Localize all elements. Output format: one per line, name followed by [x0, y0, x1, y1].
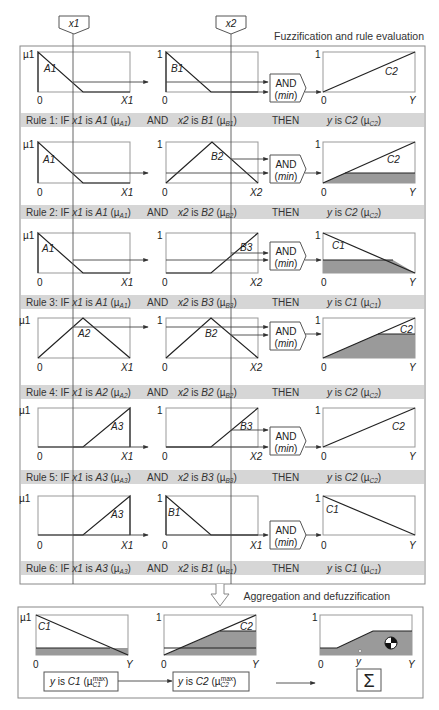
svg-text:0: 0	[33, 659, 39, 670]
svg-text:A1: A1	[42, 154, 55, 165]
svg-text:1: 1	[157, 139, 163, 150]
svg-text:X1: X1	[249, 540, 262, 551]
svg-text:0: 0	[321, 451, 327, 462]
svg-text:(min): (min)	[275, 90, 298, 101]
svg-text:AND: AND	[275, 159, 296, 170]
svg-text:0: 0	[321, 187, 327, 198]
svg-text:1: 1	[312, 612, 318, 623]
svg-text:X2: X2	[249, 187, 263, 198]
svg-text:0: 0	[318, 659, 324, 670]
svg-text:C2: C2	[240, 621, 253, 632]
svg-text:(min): (min)	[275, 443, 298, 454]
svg-text:1: 1	[156, 612, 162, 623]
svg-text:X2: X2	[249, 277, 263, 288]
svg-text:X1: X1	[120, 362, 133, 373]
svg-text:1: 1	[157, 405, 163, 416]
svg-text:A1: A1	[41, 243, 54, 254]
svg-text:B1: B1	[168, 507, 180, 518]
mu-label: µ1	[23, 49, 35, 60]
svg-text:µ1: µ1	[19, 493, 31, 504]
input-x2[interactable]: x2	[216, 16, 246, 34]
svg-text:AND: AND	[275, 431, 296, 442]
svg-text:0: 0	[162, 540, 168, 551]
svg-text:0: 0	[37, 187, 43, 198]
svg-text:y is C2 (µC2max): y is C2 (µC2max)	[177, 675, 236, 688]
svg-text:µ1: µ1	[19, 405, 31, 416]
svg-text:1: 1	[157, 315, 163, 326]
fuzzy-inference-diagram: Fuzzification and rule evaluation x1 x2 …	[0, 0, 439, 710]
svg-text:C2: C2	[385, 66, 398, 77]
sum-icon: Σ	[363, 671, 374, 691]
rule-4-text: Rule 4: IF x1 is A2 (µA2)ANDx2 is B2 (µB…	[26, 387, 381, 399]
svg-text:y is C1 (µC1max): y is C1 (µC1max)	[49, 675, 108, 688]
svg-text:C1: C1	[326, 504, 339, 515]
result-box-c2: y is C2 (µC2max)	[173, 672, 249, 691]
svg-text:C1: C1	[38, 621, 51, 632]
svg-text:0: 0	[162, 187, 168, 198]
svg-text:0: 0	[37, 277, 43, 288]
svg-text:C2: C2	[400, 324, 413, 335]
svg-text:A1: A1	[43, 63, 56, 74]
svg-text:1: 1	[315, 49, 321, 60]
svg-text:A2: A2	[77, 328, 91, 339]
svg-text:B2: B2	[211, 151, 224, 162]
svg-text:µ1: µ1	[23, 230, 35, 241]
result-box-c1: y is C1 (µC1max)	[44, 672, 118, 691]
svg-text:(min): (min)	[275, 258, 298, 269]
svg-text:X1: X1	[120, 277, 133, 288]
svg-text:1: 1	[315, 230, 321, 241]
svg-text:0: 0	[321, 540, 327, 551]
svg-text:(min): (min)	[275, 171, 298, 182]
svg-text:X1: X1	[120, 95, 133, 106]
svg-text:0: 0	[321, 95, 327, 106]
svg-text:1: 1	[315, 139, 321, 150]
svg-text:AND: AND	[275, 326, 296, 337]
rule-6-text: Rule 6: IF x1 is A3 (µA3)ANDx2 is B1 (µB…	[26, 563, 381, 575]
rule-2-text: Rule 2: IF x1 is A1 (µA1)ANDx2 is B2 (µB…	[26, 207, 381, 219]
sum-box: Σ	[357, 669, 381, 691]
svg-text:C2: C2	[392, 421, 405, 432]
and-min-box-6: AND (min)	[270, 521, 306, 549]
input-x1[interactable]: x1	[59, 16, 89, 34]
svg-text:1: 1	[157, 49, 163, 60]
input-x2-label: x2	[225, 18, 237, 29]
svg-text:µ1: µ1	[23, 139, 35, 150]
svg-text:0: 0	[37, 362, 43, 373]
svg-text:B1: B1	[171, 63, 183, 74]
svg-text:AND: AND	[275, 78, 296, 89]
svg-text:y: y	[355, 656, 362, 667]
svg-text:AND: AND	[275, 246, 296, 257]
svg-text:C2: C2	[387, 154, 400, 165]
svg-text:X1: X1	[120, 540, 133, 551]
svg-text:0: 0	[37, 451, 43, 462]
svg-text:1: 1	[157, 230, 163, 241]
svg-text:(min): (min)	[275, 338, 298, 349]
svg-text:X2: X2	[249, 451, 263, 462]
and-min-box-5: AND (min)	[270, 427, 306, 455]
rule-5-text: Rule 5: IF x1 is A3 (µA3)ANDx2 is B3 (µB…	[26, 472, 381, 484]
svg-text:1: 1	[315, 493, 321, 504]
svg-text:B2: B2	[205, 328, 218, 339]
svg-text:0: 0	[321, 277, 327, 288]
svg-text:0: 0	[162, 95, 168, 106]
input-x1-label: x1	[68, 18, 80, 29]
rule-3-text: Rule 3: IF x1 is A1 (µA1)ANDx2 is B3 (µB…	[26, 297, 381, 309]
svg-text:A3: A3	[110, 421, 124, 432]
svg-text:X1: X1	[120, 187, 133, 198]
aggregation-arrow-icon	[211, 584, 229, 606]
svg-text:µ1: µ1	[19, 315, 31, 326]
svg-text:0: 0	[37, 540, 43, 551]
svg-text:(min): (min)	[275, 537, 298, 548]
svg-text:1: 1	[315, 405, 321, 416]
svg-text:0: 0	[162, 451, 168, 462]
and-min-box-3: AND (min)	[270, 242, 306, 270]
svg-text:0: 0	[37, 95, 43, 106]
svg-text:0: 0	[162, 277, 168, 288]
and-min-box-2: AND (min)	[270, 155, 306, 183]
aggregation-title: Aggregation and defuzzification	[243, 590, 390, 602]
svg-text:X1: X1	[120, 451, 133, 462]
svg-text:C1: C1	[332, 240, 345, 251]
svg-text:A3: A3	[110, 509, 124, 520]
svg-text:1: 1	[315, 315, 321, 326]
svg-text:1: 1	[157, 493, 163, 504]
